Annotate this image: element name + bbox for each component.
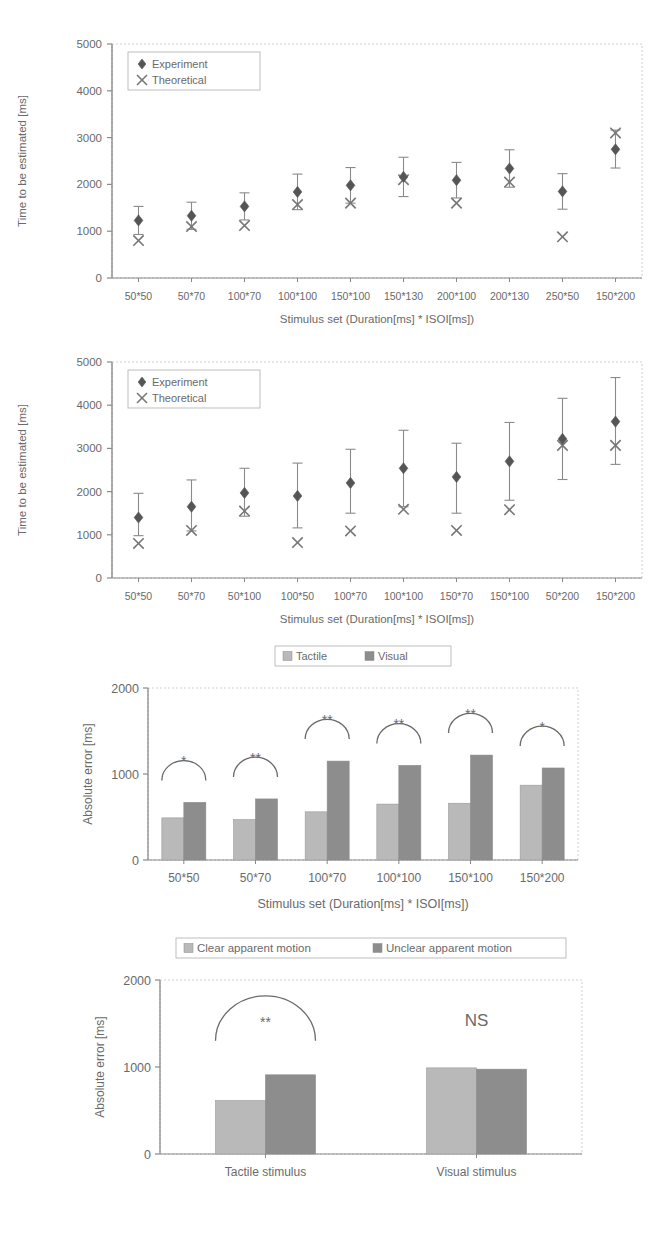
x-tick-label: 50*100 bbox=[228, 590, 261, 602]
panel-2-svg: 010002000300040005000Time to be estimate… bbox=[0, 340, 660, 640]
y-tick-label: 0 bbox=[96, 572, 102, 584]
significance-annotation: ** bbox=[250, 750, 261, 766]
y-tick-label: 0 bbox=[96, 272, 102, 284]
legend-swatch-series-2 bbox=[365, 652, 374, 661]
significance-annotation: ** bbox=[465, 706, 476, 722]
panel-4-svg: Clear apparent motionUnclear apparent mo… bbox=[0, 932, 660, 1232]
y-tick-label: 0 bbox=[144, 1148, 151, 1162]
panel-1-svg: 010002000300040005000Time to be estimate… bbox=[0, 22, 660, 340]
theoretical-marker bbox=[133, 235, 143, 245]
bar-series-2 bbox=[471, 755, 493, 860]
x-tick-label: 100*100 bbox=[278, 290, 317, 302]
x-tick-label: 150*130 bbox=[384, 290, 423, 302]
bar-series-2 bbox=[184, 802, 206, 860]
y-tick-label: 0 bbox=[132, 854, 139, 868]
theoretical-marker bbox=[133, 538, 143, 548]
significance-annotation: NS bbox=[465, 1011, 489, 1030]
x-axis-title: Stimulus set (Duration[ms] * ISOI[ms]) bbox=[257, 897, 468, 911]
bar-series-1 bbox=[377, 804, 399, 860]
theoretical-marker bbox=[239, 220, 249, 230]
y-tick-label: 2000 bbox=[123, 974, 151, 988]
experiment-marker bbox=[187, 501, 196, 512]
y-tick-label: 1000 bbox=[123, 1061, 151, 1075]
experiment-marker bbox=[505, 456, 514, 467]
plot-frame bbox=[148, 688, 578, 860]
experiment-marker bbox=[452, 471, 461, 482]
experiment-marker bbox=[346, 180, 355, 191]
y-tick-label: 2000 bbox=[76, 486, 102, 498]
bar-series-1 bbox=[427, 1068, 477, 1154]
theoretical-marker bbox=[451, 198, 461, 208]
legend-label-series-2: Visual bbox=[378, 650, 408, 662]
panel-3-svg: TactileVisual010002000Absolute error [ms… bbox=[0, 640, 660, 932]
experiment-marker bbox=[293, 186, 302, 197]
y-tick-label: 3000 bbox=[76, 442, 102, 454]
theoretical-marker bbox=[451, 525, 461, 535]
legend-label-theoretical: Theoretical bbox=[152, 74, 206, 86]
y-tick-label: 2000 bbox=[76, 178, 102, 190]
significance-annotation: ** bbox=[260, 1014, 271, 1030]
x-tick-label: 150*100 bbox=[448, 871, 493, 885]
x-tick-label: 50*50 bbox=[168, 871, 200, 885]
experiment-marker bbox=[134, 215, 143, 226]
legend-swatch-series-1 bbox=[184, 944, 193, 953]
x-tick-label: 150*200 bbox=[520, 871, 565, 885]
y-axis-title: Time to be estimated [ms] bbox=[16, 95, 28, 227]
legend-label-theoretical: Theoretical bbox=[152, 392, 206, 404]
y-tick-label: 4000 bbox=[76, 85, 102, 97]
x-tick-label: Visual stimulus bbox=[437, 1165, 517, 1179]
x-tick-label: 250*50 bbox=[546, 290, 579, 302]
experiment-marker bbox=[399, 463, 408, 474]
x-tick-label: 150*200 bbox=[596, 590, 635, 602]
theoretical-marker bbox=[557, 232, 567, 242]
experiment-marker bbox=[187, 210, 196, 221]
x-tick-label: 50*200 bbox=[546, 590, 579, 602]
x-tick-label: 150*70 bbox=[440, 590, 473, 602]
bar-series-2 bbox=[256, 799, 278, 860]
experiment-marker bbox=[505, 163, 514, 174]
bar-series-1 bbox=[216, 1100, 266, 1154]
x-tick-label: 150*200 bbox=[596, 290, 635, 302]
bar-series-1 bbox=[449, 803, 471, 860]
y-tick-label: 4000 bbox=[76, 399, 102, 411]
x-tick-label: Tactile stimulus bbox=[225, 1165, 306, 1179]
experiment-marker bbox=[399, 171, 408, 182]
bar-series-1 bbox=[305, 812, 327, 860]
x-tick-label: 100*70 bbox=[228, 290, 261, 302]
bar-series-1 bbox=[234, 820, 256, 860]
significance-annotation: * bbox=[539, 719, 545, 735]
bar-series-2 bbox=[266, 1075, 316, 1154]
significance-annotation: ** bbox=[322, 712, 333, 728]
experiment-marker bbox=[558, 186, 567, 197]
x-tick-label: 100*100 bbox=[376, 871, 421, 885]
bar-series-1 bbox=[162, 818, 184, 860]
legend-swatch-series-2 bbox=[373, 944, 382, 953]
bar-series-2 bbox=[542, 768, 564, 860]
x-tick-label: 100*70 bbox=[308, 871, 346, 885]
x-tick-label: 100*70 bbox=[334, 590, 367, 602]
theoretical-marker bbox=[345, 526, 355, 536]
y-tick-label: 5000 bbox=[76, 38, 102, 50]
y-tick-label: 2000 bbox=[111, 682, 139, 696]
experiment-marker bbox=[240, 487, 249, 498]
x-tick-label: 50*70 bbox=[240, 871, 272, 885]
experiment-marker bbox=[293, 490, 302, 501]
y-tick-label: 1000 bbox=[111, 768, 139, 782]
x-tick-label: 200*100 bbox=[437, 290, 476, 302]
experiment-marker bbox=[240, 201, 249, 212]
x-tick-label: 100*100 bbox=[384, 590, 423, 602]
experiment-marker bbox=[452, 175, 461, 186]
legend-label-series-1: Tactile bbox=[296, 650, 327, 662]
legend-label-series-1: Clear apparent motion bbox=[197, 942, 311, 954]
experiment-marker bbox=[134, 512, 143, 523]
x-tick-label: 50*70 bbox=[178, 290, 206, 302]
bar-series-2 bbox=[399, 765, 421, 860]
x-tick-label: 50*70 bbox=[178, 590, 206, 602]
x-axis-title: Stimulus set (Duration[ms] * ISOI[ms]) bbox=[280, 313, 474, 325]
bar-series-2 bbox=[477, 1069, 527, 1154]
legend-label-series-2: Unclear apparent motion bbox=[386, 942, 512, 954]
significance-annotation: ** bbox=[393, 716, 404, 732]
theoretical-marker bbox=[292, 537, 302, 547]
bar-series-2 bbox=[327, 761, 349, 860]
y-axis-title: Time to be estimated [ms] bbox=[16, 404, 28, 536]
